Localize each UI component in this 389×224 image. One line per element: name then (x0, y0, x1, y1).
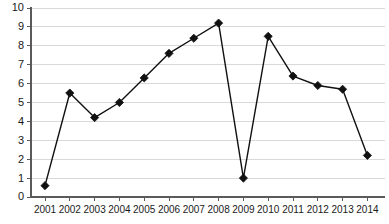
x-tick-label: 2010 (257, 204, 280, 215)
y-tick-label: 0 (18, 190, 24, 202)
series-line-1 (45, 23, 367, 186)
data-point-marker (264, 32, 272, 40)
data-point-marker (339, 85, 347, 93)
y-tick-label: 3 (18, 134, 24, 146)
x-tick-label: 2007 (183, 204, 206, 215)
x-tick-label: 2008 (207, 204, 230, 215)
y-tick-label: 6 (18, 77, 24, 89)
y-tick-label: 5 (18, 96, 24, 108)
data-point-marker (190, 34, 198, 42)
data-point-marker (215, 19, 223, 27)
y-axis-tick-labels: 012345678910 (12, 1, 24, 202)
y-tick-label: 4 (18, 115, 24, 127)
line-chart: 012345678910 200120022003200420052006200… (0, 0, 389, 224)
data-point-marker (363, 151, 371, 159)
y-tick-label: 7 (18, 58, 24, 70)
data-point-marker (41, 182, 49, 190)
y-tick-label: 2 (18, 153, 24, 165)
x-tick-label: 2005 (133, 204, 156, 215)
data-point-markers (41, 19, 372, 190)
x-tick-label: 2003 (83, 204, 106, 215)
chart-canvas: 012345678910 200120022003200420052006200… (0, 0, 389, 224)
x-tick-label: 2002 (59, 204, 82, 215)
x-tick-label: 2009 (232, 204, 255, 215)
y-tick-label: 8 (18, 39, 24, 51)
data-point-marker (314, 81, 322, 89)
x-tick-label: 2013 (331, 204, 354, 215)
y-tick-label: 10 (12, 1, 24, 13)
gridlines (31, 8, 385, 178)
data-point-marker (239, 174, 247, 182)
x-axis-tick-labels: 2001200220032004200520062007200820092010… (34, 204, 379, 215)
y-tick-label: 1 (18, 172, 24, 184)
x-tick-label: 2001 (34, 204, 57, 215)
x-tick-label: 2012 (307, 204, 330, 215)
x-tick-label: 2014 (356, 204, 379, 215)
x-tick-label: 2011 (282, 204, 304, 215)
x-tick-label: 2004 (108, 204, 131, 215)
y-tick-label: 9 (18, 20, 24, 32)
data-point-marker (289, 72, 297, 80)
x-tick-label: 2006 (158, 204, 181, 215)
